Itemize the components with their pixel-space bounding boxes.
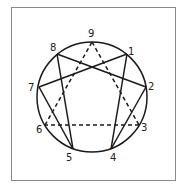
outer-circle	[37, 42, 147, 152]
label-7: 7	[28, 82, 34, 93]
label-6: 6	[36, 124, 42, 135]
hexad-lines	[39, 54, 146, 149]
enneagram-diagram: 9 1 2 3 4 5 6 7 8	[0, 0, 185, 189]
label-1: 1	[128, 46, 134, 57]
label-5: 5	[66, 152, 72, 163]
label-9: 9	[88, 28, 94, 39]
label-3: 3	[141, 122, 147, 133]
edge-6-9	[45, 42, 92, 125]
label-4: 4	[110, 152, 116, 163]
label-2: 2	[148, 81, 154, 92]
label-8: 8	[50, 42, 56, 53]
